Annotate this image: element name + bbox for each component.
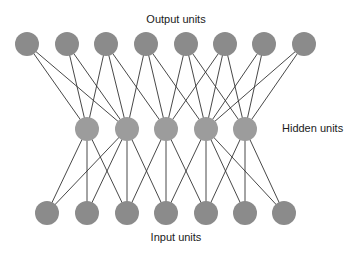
output-unit-node (174, 32, 198, 56)
edge (67, 44, 87, 129)
output-hidden-connections (27, 44, 304, 129)
edge (47, 129, 87, 213)
output-unit-node (94, 32, 118, 56)
input-unit-node (272, 201, 296, 225)
edge (106, 44, 166, 129)
output-unit-node (252, 32, 276, 56)
edge (166, 44, 225, 129)
edge (27, 44, 87, 129)
input-layer (35, 201, 296, 225)
edge (67, 44, 127, 129)
input-unit-node (35, 201, 59, 225)
edge (106, 44, 127, 129)
output-unit-node (213, 32, 237, 56)
edge (87, 44, 106, 129)
output-unit-node (55, 32, 79, 56)
output-unit-node (292, 32, 316, 56)
hidden-unit-node (233, 117, 257, 141)
hidden-input-connections (47, 129, 284, 213)
input-unit-node (154, 201, 178, 225)
output-unit-node (15, 32, 39, 56)
output-layer (15, 32, 316, 56)
hidden-layer (75, 117, 257, 141)
edge (166, 44, 186, 129)
output-units-label: Output units (0, 13, 352, 25)
input-unit-node (115, 201, 139, 225)
edge (206, 44, 225, 129)
edge (245, 129, 284, 213)
input-unit-node (194, 201, 218, 225)
hidden-unit-node (75, 117, 99, 141)
hidden-unit-node (154, 117, 178, 141)
hidden-units-label: Hidden units (282, 122, 343, 134)
edge (127, 44, 146, 129)
edge (245, 44, 304, 129)
output-unit-node (134, 32, 158, 56)
input-unit-node (233, 201, 257, 225)
hidden-unit-node (115, 117, 139, 141)
input-units-label: Input units (0, 231, 352, 243)
input-unit-node (75, 201, 99, 225)
edge (146, 44, 166, 129)
hidden-unit-node (194, 117, 218, 141)
